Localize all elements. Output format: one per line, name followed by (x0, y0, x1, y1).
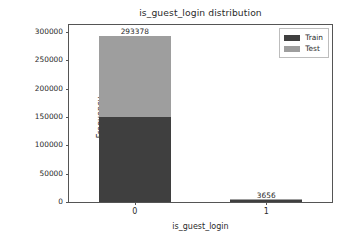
x-tick-mark (135, 202, 136, 205)
bar-value-label: 3656 (257, 191, 276, 200)
x-axis-label: is_guest_login (68, 222, 333, 231)
y-tick-mark (66, 117, 69, 118)
bar-segment-test[interactable] (99, 36, 171, 118)
bar-value-label: 293378 (121, 27, 149, 36)
y-tick-mark (66, 202, 69, 203)
y-tick-mark (66, 89, 69, 90)
legend-label: Test (305, 44, 320, 53)
x-tick-label: 1 (246, 207, 286, 216)
legend-swatch-train (284, 35, 300, 41)
y-tick-label: 100000 (35, 140, 63, 149)
bar-stack[interactable]: 3656 (230, 200, 302, 202)
bar-segment-train[interactable] (99, 117, 171, 202)
y-tick-label: 300000 (35, 27, 63, 36)
legend-swatch-test (284, 46, 300, 52)
y-tick-label: 150000 (35, 112, 63, 121)
legend-label: Train (305, 33, 323, 42)
legend-item-test[interactable]: Test (284, 43, 323, 54)
bar-segment-train[interactable] (230, 200, 302, 202)
plot-area: Frequency 050000100000150000200000250000… (68, 24, 333, 203)
chart-figure: is_guest_login distribution Frequency 05… (0, 0, 348, 243)
x-tick-mark (266, 202, 267, 205)
legend-item-train[interactable]: Train (284, 32, 323, 43)
bar-stack[interactable]: 293378 (99, 36, 171, 202)
y-tick-mark (66, 60, 69, 61)
y-tick-label: 0 (58, 197, 63, 206)
x-tick-label: 0 (115, 207, 155, 216)
y-tick-label: 200000 (35, 84, 63, 93)
y-tick-label: 50000 (39, 169, 63, 178)
y-tick-label: 250000 (35, 55, 63, 64)
chart-title: is_guest_login distribution (68, 7, 333, 18)
y-tick-mark (66, 32, 69, 33)
y-tick-mark (66, 174, 69, 175)
chart-legend: TrainTest (279, 28, 329, 58)
y-tick-mark (66, 145, 69, 146)
